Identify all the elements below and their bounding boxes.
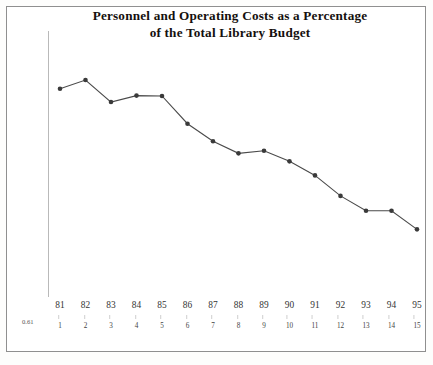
x-axis-tick-mark [84,315,85,319]
data-point-marker [287,159,292,164]
data-point-marker [109,100,114,105]
data-point-marker [58,86,63,91]
x-axis-tick-label: 88 [234,300,243,310]
chart-title-line-1: Personnel and Operating Costs as a Perce… [93,8,368,23]
x-axis-tick-label: 90 [285,300,294,310]
data-point-marker [338,194,343,199]
x-axis-tick-mark [312,315,313,319]
x-axis-tick-label: 91 [310,300,319,310]
data-point-marker [364,208,369,213]
x-axis-tick-label: 81 [55,300,64,310]
x-axis-tick-mark [186,315,187,319]
x-axis-tick-mark [237,315,238,319]
data-point-marker [211,139,216,144]
x-axis-labels-years: 818283848586878889909192939495 [48,300,428,314]
x-axis-tick-mark [362,315,363,319]
x-axis-tick-mark [160,315,161,319]
x-axis-tick-label: 84 [132,300,141,310]
x-axis-secondary-tick-label: 11 [312,322,319,330]
x-axis-tick-label: 89 [259,300,268,310]
x-axis-tick-label: 93 [361,300,370,310]
data-series-line [48,31,420,297]
x-axis-secondary-tick-label: 2 [84,322,88,330]
x-axis-secondary-tick-label: 4 [135,322,139,330]
x-axis-secondary-tick-label: 8 [237,322,241,330]
data-point-marker [389,208,394,213]
data-point-marker [236,151,241,156]
data-point-marker [262,148,267,153]
data-point-marker [160,94,165,99]
x-axis-tick-label: 94 [387,300,396,310]
x-axis-tick-mark [109,315,110,319]
x-axis-secondary-tick-label: 10 [286,322,293,330]
chart-page: Personnel and Operating Costs as a Perce… [0,0,433,365]
x-axis-secondary-tick-label: 9 [262,322,266,330]
x-axis-secondary-tick-label: 13 [362,322,369,330]
x-axis-tick-label: 85 [157,300,166,310]
x-axis-tick-label: 83 [106,300,115,310]
x-axis-labels-index: 123456789101112131415 [48,322,428,336]
x-axis-tick-label: 87 [208,300,217,310]
x-axis-tick-mark [413,315,414,319]
x-axis-tick-mark [286,315,287,319]
secondary-axis-note: 0.61 [22,318,34,325]
x-axis-tick-mark [58,315,59,319]
data-point-marker [313,173,318,178]
x-axis-secondary-tick-label: 3 [109,322,113,330]
x-axis-tick-mark [135,315,136,319]
y-axis-labels: 68.00%67.00%66.00%65.00%64.00%63.00%62.0… [0,0,48,266]
x-axis-tick-mark [388,315,389,319]
plot-area [48,31,420,297]
data-point-marker [134,93,139,98]
x-axis-secondary-tick-label: 1 [58,322,62,330]
x-axis-tick-label: 92 [336,300,345,310]
data-point-marker [415,227,420,232]
x-axis-tick-label: 82 [81,300,90,310]
x-axis-secondary-tick-label: 12 [337,322,344,330]
x-axis-tick-mark [211,315,212,319]
data-point-marker [83,78,88,83]
x-axis-tick-mark [262,315,263,319]
x-axis-secondary-tick-label: 14 [388,322,395,330]
x-axis-tick-label: 95 [412,300,421,310]
x-axis-secondary-tick-label: 15 [413,322,420,330]
x-axis-secondary-tick-label: 6 [186,322,190,330]
data-point-marker [185,121,190,126]
x-axis-secondary-tick-label: 5 [160,322,164,330]
x-axis-secondary-tick-label: 7 [211,322,215,330]
x-axis-tick-mark [337,315,338,319]
x-axis-tick-label: 86 [183,300,192,310]
